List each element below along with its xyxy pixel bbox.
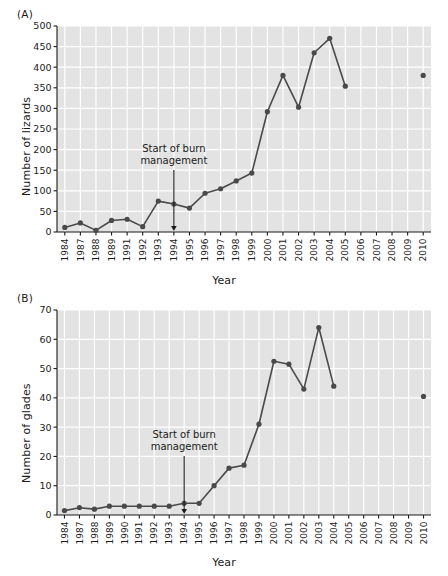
x-tick-label: 1989 [107,238,117,261]
x-tick-label: 1988 [91,238,101,261]
panel-b: (B) Number of glades 0102030405060701984… [0,290,448,576]
data-point [271,359,276,364]
y-tick-label: 70 [39,304,51,315]
y-tick-label: 50 [39,363,51,374]
data-point [343,84,348,89]
y-tick-label: 250 [33,123,51,134]
panel-b-plot: 0102030405060701984198719881989199019911… [0,290,448,576]
data-point [234,178,239,183]
x-tick-label: 2003 [309,239,319,262]
y-tick-label: 500 [33,20,51,31]
x-tick-label: 2007 [372,239,382,262]
x-tick-label: 2009 [403,238,413,261]
x-tick-label: 2010 [419,521,429,544]
y-tick-label: 100 [33,185,51,196]
x-tick-label: 2009 [404,521,414,544]
panel-a: (A) Number of lizards 050100150200250300… [0,0,448,290]
y-tick-label: 40 [39,392,51,403]
panel-a-plot: 0501001502002503003504004505001984198719… [0,0,448,290]
data-point [211,483,216,488]
y-tick-label: 10 [39,480,51,491]
x-tick-label: 1994 [179,521,189,544]
panel-b-x-axis-label: Year [0,556,448,569]
y-tick-label: 60 [39,334,51,345]
x-tick-label: 1990 [120,521,130,544]
data-point [187,206,192,211]
data-point [62,225,67,230]
data-point [312,50,317,55]
y-tick-label: 400 [33,62,51,73]
y-tick-label: 0 [45,226,51,237]
x-tick-label: 1987 [75,522,85,545]
y-tick-label: 30 [39,422,51,433]
data-point [122,504,127,509]
data-point [301,386,306,391]
data-point [316,325,321,330]
x-tick-label: 1992 [149,522,159,545]
data-point [226,466,231,471]
data-point [77,505,82,510]
x-tick-label: 1988 [90,521,100,544]
x-tick-label: 1989 [105,521,115,544]
x-tick-label: 2002 [299,522,309,545]
data-point [125,217,130,222]
x-tick-label: 2001 [278,239,288,262]
x-tick-label: 2008 [389,521,399,544]
x-tick-label: 1984 [60,238,70,261]
x-tick-label: 1999 [247,238,257,261]
x-tick-label: 1987 [76,239,86,262]
x-tick-label: 2005 [344,522,354,545]
data-point [286,362,291,367]
figure-container: (A) Number of lizards 050100150200250300… [0,0,448,576]
x-tick-label: 1998 [231,238,241,261]
y-tick-label: 0 [45,509,51,520]
x-tick-label: 1999 [254,521,264,544]
y-tick-label: 50 [39,206,51,217]
data-point [152,504,157,509]
y-tick-label: 350 [33,82,51,93]
x-tick-label: 2002 [294,239,304,262]
x-tick-label: 2010 [418,238,428,261]
data-point [167,504,172,509]
x-tick-label: 1997 [216,239,226,262]
data-point [202,191,207,196]
x-tick-label: 1995 [185,239,195,262]
x-tick-label: 2007 [374,522,384,545]
y-tick-label: 300 [33,103,51,114]
x-tick-label: 2008 [387,238,397,261]
data-point [156,199,161,204]
x-tick-label: 2006 [356,238,366,261]
x-tick-label: 2003 [314,522,324,545]
data-point [107,504,112,509]
annotation-line-2: management [140,155,207,166]
x-tick-label: 2005 [340,239,350,262]
data-point [256,422,261,427]
x-tick-label: 1984 [60,521,70,544]
annotation-line-1: Start of burn [142,143,205,154]
data-point [78,220,83,225]
x-tick-label: 2001 [284,522,294,545]
x-tick-label: 1997 [224,522,234,545]
data-point [265,109,270,114]
x-tick-label: 1993 [153,239,163,262]
data-point [331,384,336,389]
data-point [296,105,301,110]
data-point [92,507,97,512]
x-tick-label: 1995 [194,522,204,545]
x-tick-label: 2004 [325,238,335,261]
x-tick-label: 1991 [134,522,144,545]
panel-a-x-axis-label: Year [0,274,448,287]
data-point [421,73,426,78]
x-tick-label: 1996 [200,238,210,261]
data-point [62,508,67,513]
annotation-line-2: management [151,441,218,452]
data-point [140,224,145,229]
data-point [109,218,114,223]
x-tick-label: 2006 [359,521,369,544]
x-tick-label: 1992 [138,239,148,262]
data-point [249,170,254,175]
y-tick-label: 450 [33,41,51,52]
x-tick-label: 2004 [329,521,339,544]
x-tick-label: 1998 [239,521,249,544]
y-tick-label: 150 [33,165,51,176]
